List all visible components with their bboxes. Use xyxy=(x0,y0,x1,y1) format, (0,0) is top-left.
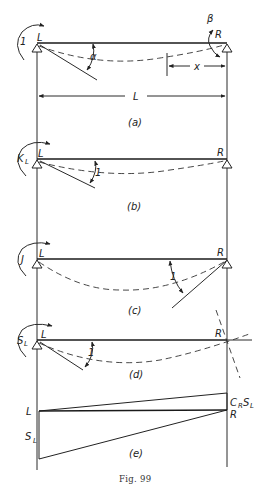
panel-label-d: (d) xyxy=(129,369,143,380)
alpha-label: α xyxy=(90,51,97,62)
deflected-shape-b xyxy=(39,161,224,174)
support-left-c-icon xyxy=(32,260,42,268)
right-support-label-b: R xyxy=(217,147,224,158)
left-ordinate-label-e-sub: L xyxy=(33,437,37,445)
right-support-label-c: R xyxy=(217,247,224,258)
left-support-label-d: L xyxy=(41,329,47,340)
panel-label-e: (e) xyxy=(129,448,143,459)
rotation-b-label: 1 xyxy=(95,167,101,178)
panel-label-b: (b) xyxy=(127,201,141,212)
moment-label-d: S xyxy=(17,335,24,346)
figure-caption: Fig. 99 xyxy=(119,474,151,484)
panel-d: 1 S L L R (d) xyxy=(17,310,252,380)
right-ordinate-s-label-e-sub: L xyxy=(250,402,254,410)
moment-label-d-sub: L xyxy=(24,340,28,348)
moment-label-a: 1 xyxy=(20,36,26,47)
support-right-a-icon xyxy=(222,44,232,52)
x-label: x xyxy=(193,61,200,72)
right-end-label-e: R xyxy=(230,409,237,420)
right-ordinate-s-label-e: S xyxy=(243,397,250,408)
panel-c: 1 J L R (c) xyxy=(18,243,232,316)
support-right-c-icon xyxy=(222,260,232,268)
baseline-e xyxy=(39,410,227,411)
left-support-label-c: L xyxy=(39,248,45,259)
deflected-shape-c xyxy=(39,262,224,290)
tangent-left-d xyxy=(40,342,83,370)
right-ordinate-c-label-e: C xyxy=(230,397,237,408)
moment-label-b-sub: L xyxy=(25,158,29,166)
left-support-label-b: L xyxy=(38,148,44,159)
right-support-label-a: R xyxy=(215,29,222,40)
left-ordinate-label-e: S xyxy=(25,431,32,442)
span-label: L xyxy=(133,91,139,102)
tangent-left-b xyxy=(40,161,95,188)
panel-label-c: (c) xyxy=(128,305,141,316)
deflected-shape-a xyxy=(39,45,224,61)
panel-a: α 1 L R β x L (a) xyxy=(17,13,232,128)
panel-label-a: (a) xyxy=(128,117,142,128)
panel-e: L R S L C R S L (e) xyxy=(25,393,254,459)
left-end-label-e: L xyxy=(26,406,32,417)
beta-label: β xyxy=(206,13,214,24)
rotation-d-label: 1 xyxy=(88,347,94,358)
rotation-c-label: 1 xyxy=(170,271,176,282)
moment-label-c: J xyxy=(19,254,24,265)
support-right-b-icon xyxy=(222,160,232,168)
right-support-label-d: R xyxy=(215,328,222,339)
panel-b: 1 K L L R (b) xyxy=(17,142,232,212)
moment-label-b: K xyxy=(17,153,25,164)
tangent-left-a xyxy=(40,45,97,80)
left-support-label-a: L xyxy=(37,32,43,43)
beam-rotation-diagram: α 1 L R β x L (a) 1 K L L R (b) xyxy=(0,0,267,495)
tangent-right-c xyxy=(172,261,226,308)
